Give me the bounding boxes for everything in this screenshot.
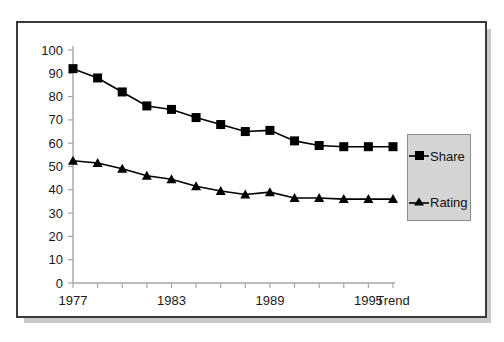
data-point-marker (118, 87, 127, 96)
chart-legend: Share Rating (407, 134, 471, 221)
y-tick-label: 40 (49, 182, 63, 197)
y-tick-label: 10 (49, 252, 63, 267)
x-tick-label: Trend (376, 293, 409, 308)
series-rating (68, 156, 398, 203)
y-tick-label: 20 (49, 229, 63, 244)
series-line (73, 69, 393, 147)
y-tick-label: 80 (49, 89, 63, 104)
data-point-marker (93, 73, 102, 82)
y-tick-label: 0 (56, 276, 63, 291)
y-tick-label: 60 (49, 136, 63, 151)
legend-item-share: Share (408, 146, 472, 166)
legend-label-share: Share (430, 150, 465, 163)
data-point-marker (389, 142, 398, 151)
data-point-marker (216, 120, 225, 129)
data-point-marker (364, 142, 373, 151)
series-share (69, 64, 398, 151)
data-point-marker (68, 156, 78, 165)
legend-label-rating: Rating (430, 196, 468, 209)
data-point-marker (265, 187, 275, 196)
legend-item-rating: Rating (408, 192, 472, 212)
data-point-marker (142, 101, 151, 110)
chart-figure: 0102030405060708090100 1977198319891995T… (0, 0, 504, 342)
y-tick-label: 70 (49, 112, 63, 127)
y-tick-label: 90 (49, 66, 63, 81)
x-tick-label: 1983 (157, 293, 186, 308)
x-axis: 1977198319891995Trend (59, 283, 410, 308)
data-point-marker (290, 136, 299, 145)
data-point-marker (167, 105, 176, 114)
chart-frame: 0102030405060708090100 1977198319891995T… (16, 21, 487, 318)
y-axis: 0102030405060708090100 (41, 43, 73, 291)
square-marker-icon (408, 148, 430, 164)
y-axis-ticks (68, 50, 73, 283)
x-axis-tick-labels: 1977198319891995Trend (59, 293, 410, 308)
data-point-marker (339, 142, 348, 151)
triangle-marker-icon (408, 194, 430, 210)
y-tick-label: 30 (49, 206, 63, 221)
x-axis-ticks (73, 283, 393, 288)
data-point-marker (241, 127, 250, 136)
data-point-marker (315, 141, 324, 150)
y-tick-label: 50 (49, 159, 63, 174)
y-tick-label: 100 (41, 43, 63, 58)
data-point-marker (192, 113, 201, 122)
x-tick-label: 1989 (255, 293, 284, 308)
data-point-marker (69, 64, 78, 73)
y-axis-tick-labels: 0102030405060708090100 (41, 43, 63, 291)
data-point-marker (265, 126, 274, 135)
data-series-group (68, 64, 398, 203)
x-tick-label: 1977 (59, 293, 88, 308)
